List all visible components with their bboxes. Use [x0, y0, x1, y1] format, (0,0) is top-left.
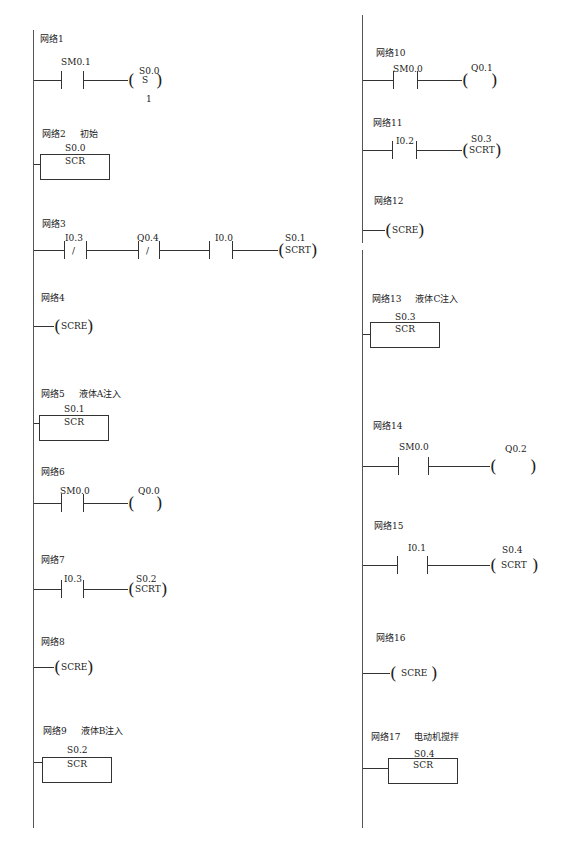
- network-17-header: 网络17电动机搅拌: [371, 732, 459, 742]
- coil-text: SCRT: [285, 245, 311, 255]
- box-address: S0.3: [395, 312, 415, 322]
- contact-address: SM0.0: [393, 64, 423, 74]
- network-11-header: 网络11: [373, 118, 402, 128]
- network-8-header: 网络8: [41, 637, 65, 647]
- network-comment: 初始: [80, 129, 98, 139]
- coil-text: SCRE: [392, 225, 418, 235]
- box-text: SCR: [371, 324, 439, 334]
- wire: [428, 466, 490, 467]
- left-power-rail: [33, 30, 34, 828]
- coil-text: SCRE: [61, 662, 87, 672]
- coil-text: SCRT: [501, 560, 527, 570]
- network-comment: 液体C注入: [415, 294, 458, 304]
- contact-no-left-icon: [61, 580, 62, 598]
- contact-address: I0.3: [64, 574, 82, 584]
- contact-no-left-icon: [61, 71, 62, 89]
- network-7-header: 网络7: [41, 555, 65, 565]
- network-label: 网络2: [42, 129, 66, 139]
- coil-text: SCRE: [401, 668, 427, 678]
- network-label: 网络7: [41, 555, 65, 565]
- wire: [34, 503, 61, 504]
- network-5-header: 网络5液体A注入: [41, 389, 121, 399]
- coil-address: Q0.1: [471, 63, 493, 73]
- wire: [83, 589, 128, 590]
- contact-address: SM0.0: [60, 486, 90, 496]
- box-address: S0.1: [64, 404, 84, 414]
- network-label: 网络1: [40, 34, 64, 44]
- network-12-header: 网络12: [374, 196, 403, 206]
- network-label: 网络13: [372, 294, 401, 304]
- network-label: 网络10: [376, 48, 405, 58]
- coil-text: S: [142, 75, 148, 85]
- scr-box: SCR: [39, 415, 109, 441]
- network-4-header: 网络4: [41, 293, 65, 303]
- wire: [363, 466, 398, 467]
- network-10-header: 网络10: [376, 48, 405, 58]
- scr-box: SCR: [42, 757, 112, 783]
- network-13-header: 网络13液体C注入: [372, 294, 458, 304]
- contact-no-left-icon: [398, 457, 399, 475]
- nc-slash: /: [146, 246, 149, 256]
- wire: [363, 334, 370, 335]
- wire: [159, 250, 209, 251]
- box-text: SCR: [389, 760, 457, 770]
- network-label: 网络4: [41, 293, 65, 303]
- contact-address: I0.2: [396, 136, 414, 146]
- wire: [427, 565, 490, 566]
- network-9-header: 网络9液体B注入: [43, 726, 123, 736]
- coil-param: 1: [146, 94, 152, 104]
- network-2-header: 网络2初始: [42, 129, 98, 139]
- wire: [363, 230, 385, 231]
- coil-address: S0.1: [285, 233, 305, 243]
- network-15-header: 网络15: [374, 521, 403, 531]
- wire: [232, 250, 278, 251]
- wire: [416, 150, 462, 151]
- network-label: 网络14: [373, 421, 402, 431]
- coil-address: S0.3: [471, 134, 491, 144]
- network-label: 网络9: [43, 726, 67, 736]
- contact-no-left-icon: [61, 494, 62, 512]
- box-text: SCR: [43, 759, 111, 769]
- right-column-power-rail-bottom: [362, 250, 363, 828]
- box-text: SCR: [40, 417, 108, 427]
- network-label: 网络16: [376, 633, 405, 643]
- contact-address: I0.3: [65, 233, 83, 243]
- box-text: SCR: [41, 156, 109, 166]
- wire: [34, 762, 42, 763]
- network-label: 网络15: [374, 521, 403, 531]
- contact-address: I0.1: [408, 543, 426, 553]
- wire: [363, 150, 392, 151]
- wire: [34, 250, 64, 251]
- contact-no-left-icon: [393, 71, 394, 89]
- scr-box: SCR: [388, 758, 458, 784]
- network-16-header: 网络16: [376, 633, 405, 643]
- contact-nc-left-icon: [138, 241, 139, 259]
- right-column-power-rail-top: [362, 15, 363, 243]
- contact-address: Q0.4: [137, 233, 159, 243]
- contact-no-left-icon: [209, 241, 210, 259]
- contact-no-left-icon: [392, 141, 393, 159]
- contact-address: SM0.1: [61, 57, 91, 67]
- wire: [83, 503, 128, 504]
- contact-nc-left-icon: [64, 241, 65, 259]
- wire: [363, 673, 390, 674]
- wire: [83, 80, 128, 81]
- network-label: 网络11: [373, 118, 402, 128]
- network-6-header: 网络6: [41, 467, 65, 477]
- coil-text: SCRE: [61, 321, 87, 331]
- coil-address: S0.4: [502, 545, 522, 555]
- scr-box: SCR: [370, 322, 440, 348]
- coil-text: SCRT: [135, 584, 161, 594]
- wire: [34, 326, 54, 327]
- network-label: 网络5: [41, 389, 65, 399]
- wire: [417, 80, 462, 81]
- box-address: S0.2: [67, 745, 87, 755]
- coil-address: Q0.2: [505, 444, 527, 454]
- coil-text: SCRT: [469, 145, 495, 155]
- wire: [34, 589, 61, 590]
- network-comment: 液体B注入: [81, 726, 124, 736]
- coil-address: S0.2: [136, 574, 156, 584]
- wire: [34, 80, 61, 81]
- network-label: 网络17: [371, 732, 400, 742]
- scr-box: SCR: [40, 154, 110, 180]
